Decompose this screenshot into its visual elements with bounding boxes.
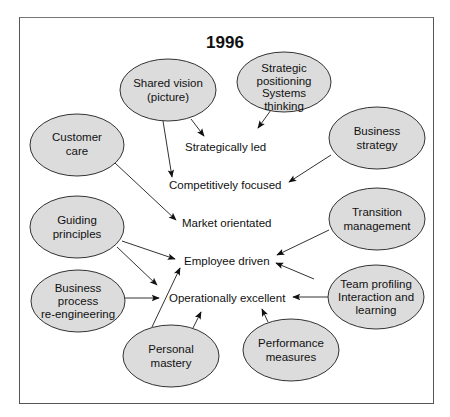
svg-text:process: process: [58, 295, 99, 307]
edge-customer-care-market-orientated: [115, 163, 176, 220]
svg-text:Interaction and: Interaction and: [338, 291, 414, 303]
svg-text:Team profiling: Team profiling: [340, 278, 412, 290]
edge-shared-vision-competitively-focused: [163, 121, 172, 177]
node-performance-measures: Performance measures: [243, 319, 339, 381]
svg-text:Personal: Personal: [148, 343, 193, 355]
svg-text:Systems: Systems: [262, 87, 306, 99]
svg-text:Guiding: Guiding: [57, 214, 97, 226]
edge-transition-management-employee-driven: [277, 230, 329, 255]
svg-text:principles: principles: [53, 228, 102, 240]
outcome-operationally-excellent: Operationally excellent: [169, 292, 286, 304]
node-business-process: Business process re-engineering: [31, 270, 125, 332]
node-shared-vision: Shared vision (picture): [120, 59, 216, 121]
svg-text:care: care: [66, 145, 88, 157]
outcome-strategically-led: Strategically led: [185, 141, 266, 153]
edge-guiding-principles-employee-driven: [122, 241, 175, 259]
edge-team-profiling-employee-driven: [276, 263, 314, 279]
svg-text:re-engineering: re-engineering: [41, 308, 115, 320]
svg-text:mastery: mastery: [151, 357, 192, 369]
svg-text:management: management: [343, 220, 411, 232]
node-customer-care: Customer care: [30, 114, 124, 176]
svg-text:Performance: Performance: [258, 337, 324, 349]
edge-performance-measures-operationally-excellent: [262, 309, 268, 322]
svg-text:positioning: positioning: [257, 75, 312, 87]
svg-text:Business: Business: [354, 125, 401, 137]
svg-text:strategy: strategy: [357, 139, 398, 151]
node-team-profiling: Team profiling Interaction and learning: [328, 265, 424, 329]
edge-strategic-positioning-strategically-led: [258, 110, 271, 128]
diagram-canvas: 1996 Strategically led Competitively foc…: [0, 0, 450, 417]
node-business-strategy: Business strategy: [329, 107, 425, 169]
node-strategic-positioning: Strategic positioning Systems thinking: [237, 52, 331, 112]
svg-text:(picture): (picture): [147, 91, 189, 103]
node-guiding-principles: Guiding principles: [30, 196, 124, 258]
svg-text:Business: Business: [55, 282, 102, 294]
node-personal-mastery: Personal mastery: [123, 325, 219, 387]
edge-guiding-principles-operationally-excellent: [117, 247, 157, 285]
node-transition-management: Transition management: [329, 188, 425, 250]
outcome-employee-driven: Employee driven: [184, 255, 270, 267]
svg-text:Shared vision: Shared vision: [133, 77, 203, 89]
svg-text:measures: measures: [266, 351, 317, 363]
diagram-title: 1996: [206, 33, 244, 52]
svg-text:Customer: Customer: [52, 131, 102, 143]
outcome-market-orientated: Market orientated: [182, 217, 272, 229]
edge-personal-mastery-operationally-excellent: [193, 312, 201, 328]
edge-shared-vision-strategically-led: [191, 119, 204, 136]
outcomes: Strategically led Competitively focused …: [169, 141, 286, 304]
svg-text:Transition: Transition: [352, 206, 402, 218]
svg-text:learning: learning: [356, 304, 397, 316]
outcome-competitively-focused: Competitively focused: [169, 179, 282, 191]
svg-text:Strategic: Strategic: [261, 62, 307, 74]
edge-business-strategy-competitively-focused: [289, 155, 331, 182]
svg-text:thinking: thinking: [264, 100, 304, 112]
